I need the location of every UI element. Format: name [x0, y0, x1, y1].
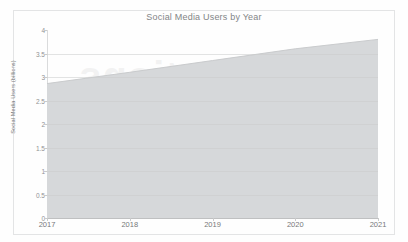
y-tick-label: 4 — [23, 27, 45, 34]
y-tick-mark — [44, 148, 47, 149]
y-tick-label: 2 — [23, 121, 45, 128]
y-tick-label: 1 — [23, 168, 45, 175]
gridline — [47, 77, 378, 78]
x-tick-mark — [295, 218, 296, 221]
y-tick-mark — [44, 195, 47, 196]
y-tick-label: 2.5 — [23, 97, 45, 104]
y-axis-label: Social Media Users (billions) — [10, 22, 16, 172]
gridline — [47, 148, 378, 149]
y-tick-mark — [44, 124, 47, 125]
x-tick-mark — [130, 218, 131, 221]
y-tick-label: 0.5 — [23, 191, 45, 198]
y-tick-label: 3 — [23, 74, 45, 81]
y-tick-mark — [44, 171, 47, 172]
chart-page: Applications on Social Media Users by Ye… — [0, 0, 408, 242]
y-axis-tick-labels: 00.511.522.533.54 — [19, 30, 45, 218]
y-tick-mark — [44, 77, 47, 78]
gridline — [47, 101, 378, 102]
y-tick-label: 1.5 — [23, 144, 45, 151]
x-tick-label: 2018 — [121, 220, 138, 229]
x-tick-label: 2019 — [204, 220, 221, 229]
x-axis-tick-labels: 20172018201920202021 — [47, 220, 378, 234]
gridline — [47, 195, 378, 196]
y-tick-label: 3.5 — [23, 50, 45, 57]
y-tick-mark — [44, 101, 47, 102]
x-tick-label: 2017 — [39, 220, 56, 229]
gridline — [47, 124, 378, 125]
x-tick-label: 2021 — [370, 220, 387, 229]
x-tick-mark — [378, 218, 379, 221]
x-tick-label: 2020 — [287, 220, 304, 229]
gridline — [47, 54, 378, 55]
y-tick-mark — [44, 54, 47, 55]
x-tick-mark — [47, 218, 48, 221]
plot-area — [47, 30, 378, 218]
x-tick-mark — [213, 218, 214, 221]
chart-title: Social Media Users by Year — [13, 12, 395, 22]
gridline — [47, 171, 378, 172]
y-tick-mark — [44, 30, 47, 31]
